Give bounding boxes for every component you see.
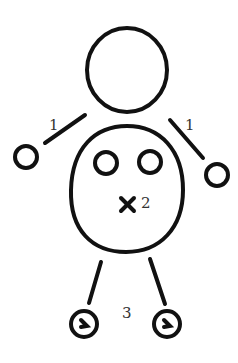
right-eye-circle [139, 151, 161, 173]
left-eye-circle [95, 152, 117, 174]
right-arm-label: 1 [185, 116, 195, 134]
left-leg-line [89, 262, 101, 303]
x-mark-label: 2 [141, 194, 151, 212]
head-circle [87, 28, 167, 112]
right-leg-line [150, 259, 165, 304]
left-hand-circle [15, 146, 37, 168]
right-foot-arrow-icon [164, 320, 170, 327]
feet-label: 3 [122, 304, 132, 322]
left-arm-label: 1 [49, 116, 59, 134]
left-foot-arrow-icon [81, 320, 87, 327]
right-hand-circle [206, 164, 228, 186]
figure-diagram: 1 1 2 3 [0, 0, 238, 363]
left-foot [71, 311, 97, 337]
right-foot [154, 311, 180, 337]
body-oval [71, 126, 183, 252]
